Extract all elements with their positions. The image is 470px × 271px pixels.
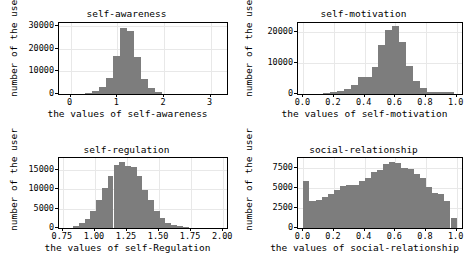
x-tick-label: 1.00 bbox=[84, 231, 104, 241]
y-tickmark bbox=[294, 227, 297, 228]
histogram-bar bbox=[183, 227, 189, 228]
bars-self-regulation bbox=[59, 158, 227, 228]
histogram-bar bbox=[385, 30, 392, 94]
subplot-self-motivation: self-motivation 0.00.20.40.60.81.0 01000… bbox=[235, 0, 470, 135]
x-tick-label: 0.4 bbox=[356, 97, 371, 107]
plot-area-self-regulation bbox=[58, 157, 228, 229]
plot-area-self-awareness bbox=[58, 22, 228, 95]
gridline-horizontal bbox=[59, 228, 227, 229]
x-tick-label: 3 bbox=[207, 97, 212, 107]
histogram-bar bbox=[113, 56, 120, 94]
y-tickmark bbox=[294, 62, 297, 63]
x-tick-label: 0.2 bbox=[325, 97, 340, 107]
xlabel-self-motivation: the values of self-motivation bbox=[235, 108, 470, 119]
y-tick-label: 20000 bbox=[28, 43, 54, 53]
x-tick-label: 0 bbox=[67, 97, 72, 107]
histogram-bar bbox=[447, 92, 454, 94]
y-tickmark bbox=[294, 167, 297, 168]
bars-self-awareness bbox=[59, 23, 227, 94]
histogram-bar bbox=[155, 92, 162, 94]
histogram-bar bbox=[99, 87, 106, 94]
y-tick-label: 0 bbox=[288, 88, 293, 98]
y-tickmark bbox=[55, 93, 58, 94]
histogram-bar bbox=[85, 93, 92, 94]
x-tick-label: 0.8 bbox=[417, 97, 432, 107]
histogram-bar bbox=[141, 79, 148, 94]
plot-area-self-motivation bbox=[297, 22, 463, 95]
gridline-horizontal bbox=[298, 228, 462, 229]
x-tick-label: 0.2 bbox=[325, 231, 340, 241]
chart-title-social-relationship: social-relationship bbox=[235, 144, 470, 155]
y-tick-label: 0 bbox=[288, 222, 293, 232]
gridline-horizontal bbox=[59, 94, 227, 95]
histogram-bar bbox=[413, 81, 420, 94]
y-tick-label: 0 bbox=[49, 88, 54, 98]
histogram-bar bbox=[427, 92, 434, 94]
y-tick-label: 5000 bbox=[273, 182, 293, 192]
histogram-bar bbox=[378, 45, 385, 94]
histogram-bar bbox=[441, 92, 448, 94]
histogram-bar bbox=[120, 28, 127, 94]
ylabel-social-relationship: number of the user bbox=[243, 128, 254, 231]
y-tickmark bbox=[55, 70, 58, 71]
histogram-bar bbox=[372, 67, 379, 94]
x-tick-label: 0.6 bbox=[387, 231, 402, 241]
ylabel-self-awareness: number of the user bbox=[8, 0, 19, 97]
histogram-bar bbox=[148, 88, 155, 94]
ylabel-self-regulation: number of the user bbox=[8, 128, 19, 231]
gridline-horizontal bbox=[298, 94, 462, 95]
x-tick-label: 0.0 bbox=[295, 231, 310, 241]
subplot-social-relationship: social-relationship 0.00.20.40.60.81.0 0… bbox=[235, 136, 470, 271]
y-tickmark bbox=[55, 208, 58, 209]
y-tickmark bbox=[55, 227, 58, 228]
chart-title-self-motivation: self-motivation bbox=[235, 8, 470, 19]
xlabel-self-awareness: the values of self-awareness bbox=[0, 108, 235, 119]
x-tick-label: 2.00 bbox=[212, 231, 232, 241]
chart-title-self-awareness: self-awareness bbox=[0, 8, 235, 19]
x-tick-label: 1.0 bbox=[448, 97, 463, 107]
histogram-bar bbox=[323, 93, 330, 94]
x-tick-label: 0.0 bbox=[295, 97, 310, 107]
y-tick-label: 20000 bbox=[267, 26, 293, 36]
histogram-bar bbox=[351, 85, 358, 94]
x-tick-label: 1.25 bbox=[116, 231, 136, 241]
histogram-bar bbox=[434, 92, 441, 94]
histogram-bar bbox=[344, 89, 351, 94]
y-tickmark bbox=[294, 93, 297, 94]
y-tick-label: 10000 bbox=[267, 57, 293, 67]
y-tick-label: 5000 bbox=[34, 203, 54, 213]
y-tick-label: 7500 bbox=[273, 162, 293, 172]
plot-area-social-relationship bbox=[297, 157, 463, 229]
xlabel-self-regulation: the values of self-Regulation bbox=[0, 242, 235, 253]
histogram-bar bbox=[337, 91, 344, 94]
histogram-bar bbox=[134, 57, 141, 94]
ylabel-self-motivation: number of the user bbox=[243, 0, 254, 97]
x-tick-label: 0.8 bbox=[417, 231, 432, 241]
y-tickmark bbox=[55, 25, 58, 26]
x-tick-label: 1 bbox=[114, 97, 119, 107]
x-tick-label: 1.75 bbox=[180, 231, 200, 241]
histogram-bar bbox=[106, 78, 113, 94]
x-tick-label: 0.75 bbox=[52, 231, 72, 241]
histogram-figure: self-awareness 0123 0100002000030000 the… bbox=[0, 0, 470, 271]
bars-social-relationship bbox=[298, 158, 462, 228]
y-tick-label: 15000 bbox=[28, 164, 54, 174]
y-tickmark bbox=[55, 188, 58, 189]
histogram-bar bbox=[365, 77, 372, 94]
x-tick-label: 1.50 bbox=[148, 231, 168, 241]
y-tick-label: 2500 bbox=[273, 202, 293, 212]
x-tick-label: 1.0 bbox=[448, 231, 463, 241]
x-tick-label: 0.6 bbox=[387, 97, 402, 107]
y-tickmark bbox=[55, 48, 58, 49]
x-tick-label: 2 bbox=[160, 97, 165, 107]
chart-title-self-regulation: self-regulation bbox=[0, 144, 235, 155]
y-tickmark bbox=[294, 187, 297, 188]
y-tick-label: 30000 bbox=[28, 20, 54, 30]
histogram-bar bbox=[127, 31, 134, 94]
histogram-bar bbox=[406, 66, 413, 94]
x-tick-label: 0.4 bbox=[356, 231, 371, 241]
y-tickmark bbox=[55, 169, 58, 170]
xlabel-social-relationship: the values of social-relationship bbox=[235, 242, 470, 253]
y-tick-label: 0 bbox=[49, 222, 54, 232]
subplot-self-awareness: self-awareness 0123 0100002000030000 the… bbox=[0, 0, 235, 135]
